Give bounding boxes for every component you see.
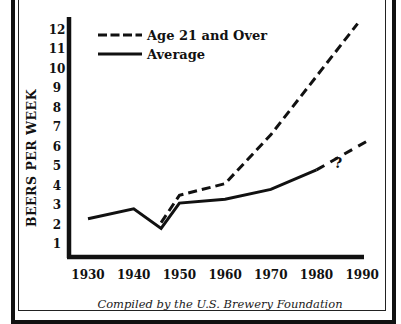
- y-tick-label: 8: [53, 101, 61, 115]
- y-tick-label: 4: [53, 179, 61, 193]
- x-tick-label: 1950: [163, 268, 196, 282]
- y-tick-label: 6: [53, 140, 61, 154]
- y-tick-label: 5: [53, 159, 61, 173]
- legend: Age 21 and Over Average: [98, 28, 267, 62]
- legend-average-label: Average: [146, 47, 205, 62]
- y-tick-label: 10: [49, 62, 66, 76]
- y-tick-label: 2: [53, 218, 61, 232]
- x-tick-label: 1980: [300, 268, 333, 282]
- x-axis-ticks: 1930194019501960197019801990: [71, 268, 379, 282]
- y-tick-label: 1: [53, 237, 61, 251]
- y-tick-label: 12: [49, 23, 66, 37]
- x-tick-label: 1960: [208, 268, 241, 282]
- question-mark-annotation: ?: [334, 155, 342, 171]
- y-tick-label: 7: [53, 120, 61, 134]
- y-axis-ticks: 123456789101112: [49, 23, 66, 252]
- x-tick-label: 1990: [345, 268, 378, 282]
- series-average-projected-line: [317, 139, 372, 170]
- y-axis-label: BEERS PER WEEK: [24, 88, 39, 227]
- legend-age21-label: Age 21 and Over: [146, 28, 267, 43]
- line-chart: 123456789101112 193019401950196019701980…: [0, 0, 401, 324]
- series-average-line: [88, 170, 317, 229]
- source-caption: Compiled by the U.S. Brewery Foundation: [97, 297, 342, 311]
- x-tick-label: 1970: [254, 268, 287, 282]
- x-tick-label: 1940: [117, 268, 150, 282]
- y-tick-label: 11: [49, 42, 66, 56]
- x-tick-label: 1930: [71, 268, 104, 282]
- y-tick-label: 3: [53, 198, 61, 212]
- y-tick-label: 9: [53, 81, 61, 95]
